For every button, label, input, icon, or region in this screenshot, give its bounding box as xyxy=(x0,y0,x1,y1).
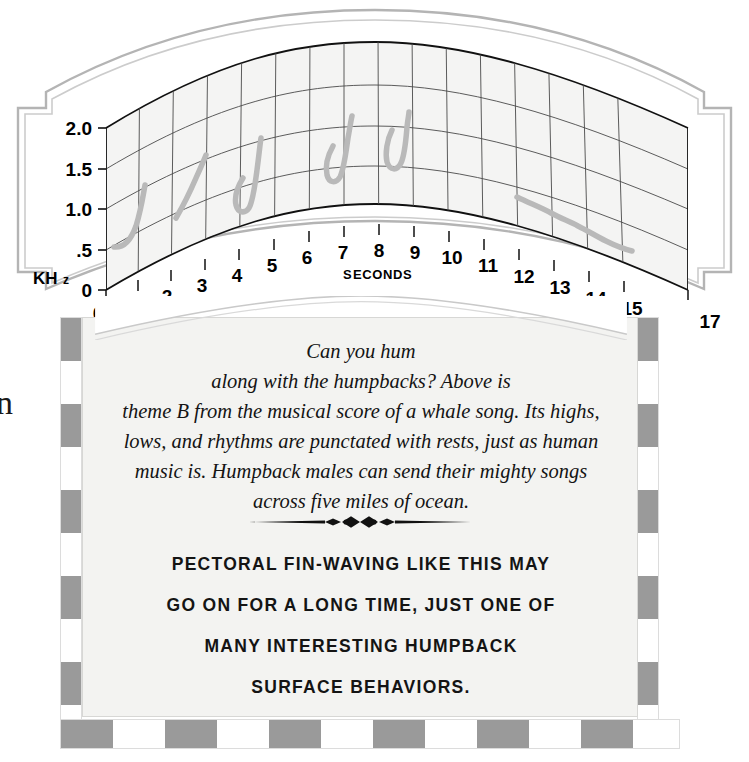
body-line-4: lows, and rhythms are punctated with res… xyxy=(35,426,687,456)
checker-border-bottom xyxy=(60,719,680,749)
caption-line-1: PECTORAL FIN-WAVING LIKE THIS MAY xyxy=(91,544,631,585)
diamond-rule-divider-icon xyxy=(247,514,473,530)
y-axis-title: KH z xyxy=(33,269,69,288)
caption-text: PECTORAL FIN-WAVING LIKE THIS MAY GO ON … xyxy=(91,544,631,708)
y-axis-title-main: KH xyxy=(33,269,58,288)
caption-card: Can you hum along with the humpbacks? Ab… xyxy=(82,317,638,717)
x-tick-12: 12 xyxy=(513,266,534,287)
y-tick-1-5: 1.5 xyxy=(66,159,93,180)
x-axis-title-cap: S xyxy=(343,267,352,282)
card-top-arc xyxy=(83,296,639,340)
x-tick-3: 3 xyxy=(197,275,208,296)
body-line-6: across five miles of ocean. xyxy=(35,486,687,516)
y-axis-title-sub: z xyxy=(63,273,69,287)
body-line-3: theme B from the musical score of a whal… xyxy=(35,396,687,426)
y-axis-labels: 2.0 1.5 1.0 .5 0 xyxy=(66,118,93,301)
y-tick-0-5: .5 xyxy=(76,240,92,261)
x-tick-11: 11 xyxy=(478,255,499,276)
x-tick-13: 13 xyxy=(549,277,570,298)
x-tick-8: 8 xyxy=(374,240,385,261)
page-root: n xyxy=(0,0,749,762)
x-tick-7: 7 xyxy=(338,242,349,263)
spectrogram-svg: 2.0 1.5 1.0 .5 0 KH z xyxy=(0,0,749,345)
caption-line-3: MANY INTERESTING HUMPBACK xyxy=(91,626,631,667)
x-tick-9: 9 xyxy=(410,242,421,263)
body-line-1: Can you hum xyxy=(35,336,687,366)
caption-line-4: SURFACE BEHAVIORS. xyxy=(91,667,631,708)
x-axis-title-rest: ECONDS xyxy=(353,267,412,282)
x-tick-10: 10 xyxy=(441,247,462,268)
x-tick-6: 6 xyxy=(302,247,313,268)
caption-line-2: GO ON FOR A LONG TIME, JUST ONE OF xyxy=(91,585,631,626)
x-tick-4: 4 xyxy=(232,265,243,286)
y-tick-1-0: 1.0 xyxy=(66,199,92,220)
body-paragraph: Can you hum along with the humpbacks? Ab… xyxy=(35,336,687,516)
caption-card-wrap: Can you hum along with the humpbacks? Ab… xyxy=(60,317,680,762)
x-axis-title: S ECONDS xyxy=(343,267,412,282)
body-line-2: along with the humpbacks? Above is xyxy=(35,366,687,396)
edge-text-fragment: n xyxy=(0,383,22,423)
y-tick-2-0: 2.0 xyxy=(66,118,92,139)
spectrogram-panel: 2.0 1.5 1.0 .5 0 KH z xyxy=(0,0,749,340)
x-tick-5: 5 xyxy=(267,255,278,276)
x-tick-17: 17 xyxy=(699,311,720,332)
body-line-5: music is. Humpback males can send their … xyxy=(35,456,687,486)
